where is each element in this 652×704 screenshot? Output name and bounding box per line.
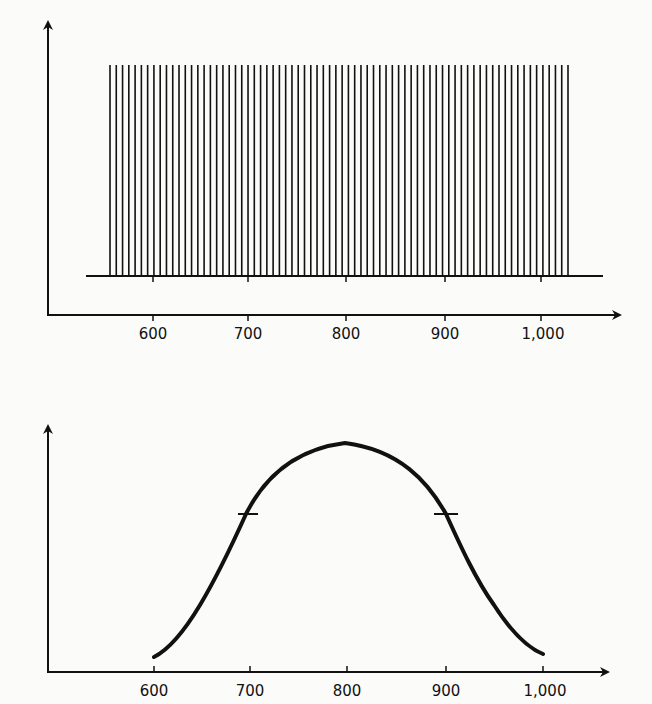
bottom-chart: 600 700 800 900 1,000 bbox=[47, 426, 608, 700]
bottom-tick-label-800: 800 bbox=[333, 682, 362, 700]
bottom-tick-label-700: 700 bbox=[236, 682, 265, 700]
bottom-tick-label-900: 900 bbox=[432, 682, 461, 700]
comb-lines bbox=[110, 65, 568, 276]
figure: 600 700 800 900 1,000 bbox=[0, 0, 652, 704]
top-tick-label-600: 600 bbox=[139, 325, 168, 343]
bottom-tick-label-1000: 1,000 bbox=[524, 682, 567, 700]
bottom-tick-labels: 600 700 800 900 1,000 bbox=[140, 682, 567, 700]
bell-curve bbox=[154, 443, 543, 657]
top-chart: 600 700 800 900 1,000 bbox=[47, 22, 620, 343]
top-tick-label-900: 900 bbox=[431, 325, 460, 343]
top-tick-label-800: 800 bbox=[332, 325, 361, 343]
top-tick-label-700: 700 bbox=[234, 325, 263, 343]
top-tick-label-1000: 1,000 bbox=[522, 325, 565, 343]
bottom-tick-label-600: 600 bbox=[140, 682, 169, 700]
top-tick-labels: 600 700 800 900 1,000 bbox=[139, 325, 565, 343]
